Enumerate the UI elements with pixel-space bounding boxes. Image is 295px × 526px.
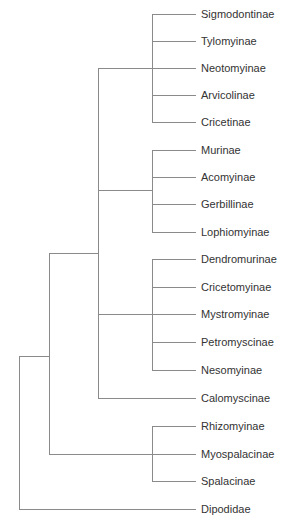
taxon-label-rhizomyinae: Rhizomyinae <box>201 420 265 433</box>
taxon-label-gerbillinae: Gerbillinae <box>201 198 254 211</box>
taxon-label-sigmodontinae: Sigmodontinae <box>201 8 274 21</box>
taxon-label-neotomyinae: Neotomyinae <box>201 62 266 75</box>
taxon-label-murinae: Murinae <box>201 144 241 157</box>
taxon-label-lophiomyinae: Lophiomyinae <box>201 226 270 239</box>
node-muroidea <box>98 69 196 399</box>
clade-nesomyidae <box>152 260 196 371</box>
taxon-label-cricetomyinae: Cricetomyinae <box>201 281 271 294</box>
clade-cricetidae <box>152 15 196 123</box>
taxon-label-nesomyinae: Nesomyinae <box>201 364 262 377</box>
taxon-label-arvicolinae: Arvicolinae <box>201 89 255 102</box>
taxon-label-spalacinae: Spalacinae <box>201 475 255 488</box>
taxon-label-myospalacinae: Myospalacinae <box>201 448 274 461</box>
taxon-label-mystromyinae: Mystromyinae <box>201 308 269 321</box>
taxon-label-dendromurinae: Dendromurinae <box>201 253 277 266</box>
node-root <box>19 357 196 510</box>
taxon-label-petromyscinae: Petromyscinae <box>201 336 274 349</box>
taxon-label-cricetinae: Cricetinae <box>201 116 251 129</box>
taxon-label-dipodidae: Dipodidae <box>201 503 251 516</box>
taxon-label-acomyinae: Acomyinae <box>201 171 255 184</box>
taxon-label-calomyscinae: Calomyscinae <box>201 392 270 405</box>
taxon-label-tylomyinae: Tylomyinae <box>201 35 257 48</box>
clade-muridae <box>152 151 196 233</box>
node-muroidea-spalacidae <box>49 254 196 455</box>
